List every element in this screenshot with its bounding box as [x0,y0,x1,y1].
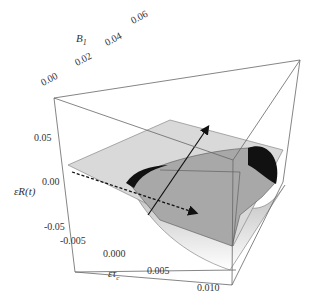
plot-3d: 0.00 0.02 0.04 0.06 B1 0.05 0.00 -0.05 ε… [0,0,311,308]
x-tick-2: 0.005 [147,265,170,276]
x-tick-1: 0.000 [103,248,126,259]
z-tick-0: 0.05 [34,132,52,143]
z-tick-1: 0.00 [42,176,60,187]
b1-tick-2: 0.04 [103,30,124,48]
b1-axis: 0.00 0.02 0.04 0.06 B1 [39,8,150,88]
z-axis-label: εR(t) [14,185,36,198]
x-axis-label: ετc [108,267,120,282]
b1-tick-0: 0.00 [39,70,60,88]
plot-figure: 0.00 0.02 0.04 0.06 B1 0.05 0.00 -0.05 ε… [0,0,311,308]
x-tick-0: -0.005 [60,235,86,246]
b1-tick-3: 0.06 [129,8,150,26]
b1-tick-1: 0.02 [73,50,94,68]
x-tick-3: 0.010 [197,282,220,293]
z-axis: 0.05 0.00 -0.05 εR(t) [14,132,65,232]
z-tick-2: -0.05 [44,221,65,232]
b1-axis-label: B1 [76,32,87,47]
